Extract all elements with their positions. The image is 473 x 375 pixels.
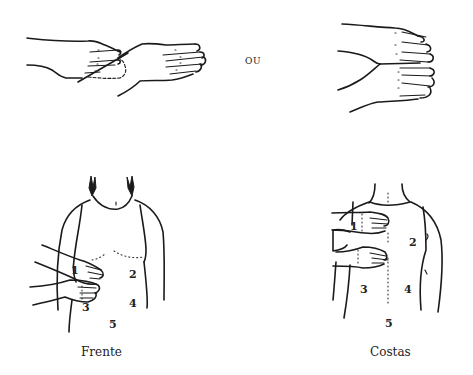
back-position-3-label: 3	[360, 283, 368, 296]
back-position-2-label: 2	[409, 236, 417, 249]
illustration-canvas: OU	[0, 0, 473, 375]
back-position-1-label: 1	[350, 220, 358, 233]
back-position-4-label: 4	[404, 283, 412, 296]
back-torso-illustration	[0, 0, 473, 375]
back-position-5-label: 5	[385, 317, 393, 330]
back-caption: Costas	[370, 345, 411, 359]
